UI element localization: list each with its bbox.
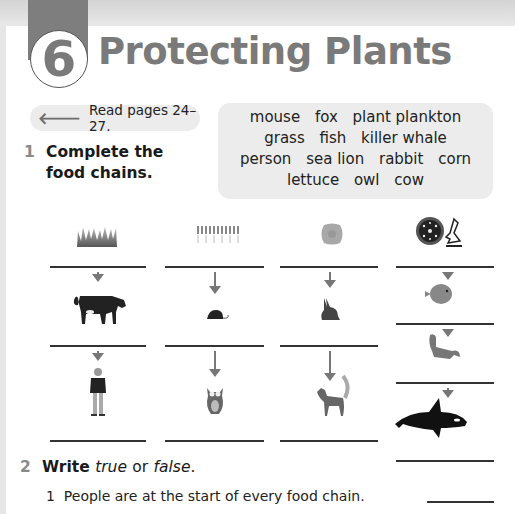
rabbit-icon [318,298,342,322]
answer-blank[interactable] [396,382,494,384]
word-bank-line: grass fish killer whale [218,128,493,149]
word-bank-line: mouse fox plant plankton [218,107,493,128]
word: rabbit [379,150,423,168]
word: plant plankton [353,108,462,126]
answer-blank[interactable] [427,501,494,503]
chapter-number-badge: 6 [30,30,88,88]
instruction-true: true [95,458,127,476]
arrow-down-icon [97,351,99,359]
answer-blank[interactable] [280,440,378,442]
statement-1: 1 People are at the start of every food … [46,488,365,504]
word-bank-line: person sea lion rabbit corn [218,149,493,170]
answer-blank[interactable] [50,266,146,268]
exercise-2-instruction: 2Write true or false. [20,458,195,476]
instruction-false: false [154,458,191,476]
answer-blank[interactable] [396,460,494,462]
statement-number: 1 [46,488,55,504]
word: killer whale [361,129,447,147]
word: corn [438,150,471,168]
owl-icon [205,384,225,416]
answer-blank[interactable] [165,266,264,268]
sea-lion-icon [426,333,462,361]
answer-blank[interactable] [165,440,264,442]
killer-whale-icon [395,398,470,440]
word: grass [264,129,305,147]
answer-blank[interactable] [50,345,146,347]
word: owl [354,171,380,189]
instruction-text: Complete the [46,143,163,161]
answer-blank[interactable] [396,266,494,268]
instruction-text: Write [42,458,90,476]
cow-icon [72,290,128,324]
answer-blank[interactable] [50,440,146,442]
arrow-down-icon [214,272,216,292]
corn-icon [196,226,240,244]
exercise-1-instruction: 1Complete the food chains. [24,142,163,184]
fox-icon [315,372,351,418]
answer-blank[interactable] [280,345,378,347]
exercise-number: 2 [20,458,42,476]
read-pages-text: Read pages 24–27. [89,102,200,134]
lettuce-icon [320,223,344,245]
word-bank-line: lettuce owl cow [218,170,493,191]
word: sea lion [306,150,364,168]
chapter-number: 6 [42,34,77,84]
exercise-number: 1 [24,142,46,163]
arrow-down-icon [447,388,449,396]
word: cow [394,171,424,189]
person-icon [88,367,108,417]
left-arrow-icon: 🡐 [38,108,81,128]
arrow-down-icon [447,272,449,278]
answer-blank[interactable] [396,323,494,325]
arrow-down-icon [214,351,216,375]
fish-icon [425,283,453,305]
grass-icon [76,225,118,247]
answer-blank[interactable] [280,266,378,268]
word: fox [315,108,338,126]
statement-text: People are at the start of every food ch… [64,488,365,504]
word: mouse [250,108,300,126]
instruction-end: . [190,458,195,476]
plankton-microscope-icon [414,217,464,249]
word: fish [320,129,347,147]
arrow-down-icon [97,272,99,280]
word: person [240,150,291,168]
read-pages-hint: 🡐 Read pages 24–27. [30,105,200,131]
mouse-icon [205,307,231,321]
instruction-or: or [132,458,148,476]
word-bank: mouse fox plant plankton grass fish kill… [218,103,493,199]
chapter-title: Protecting Plants [98,30,452,73]
arrow-down-icon [329,272,331,286]
instruction-text: food chains. [46,163,163,184]
answer-blank[interactable] [165,345,264,347]
word: lettuce [287,171,339,189]
